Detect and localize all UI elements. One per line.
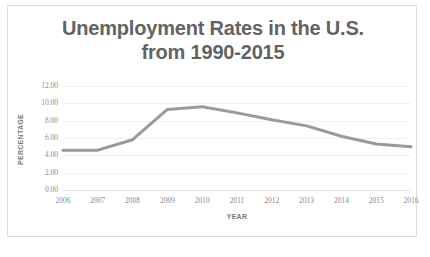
- plot-wrapper: PERCENTAGE 12.0010.008.006.004.002.000.0…: [8, 80, 418, 238]
- x-axis-tick-labels: 2006200720082009201020112012201320142015…: [63, 196, 411, 210]
- plot-area: [63, 86, 411, 190]
- chart-card: Unemployment Rates in the U.S. from 1990…: [7, 5, 417, 237]
- chart-title-line-1: Unemployment Rates in the U.S.: [8, 16, 418, 40]
- y-axis-title: PERCENTAGE: [17, 104, 24, 176]
- y-axis-tick-label: 2.00: [24, 168, 58, 177]
- gridline: [63, 190, 411, 191]
- x-axis-tick-label: 2016: [391, 196, 430, 205]
- chart-title-line-2: from 1990-2015: [8, 40, 418, 64]
- chart-title: Unemployment Rates in the U.S. from 1990…: [8, 16, 418, 65]
- y-axis-tick-label: 6.00: [24, 133, 58, 142]
- y-axis-tick-label: 10.00: [24, 98, 58, 107]
- series-polyline: [63, 107, 411, 150]
- y-axis-tick-label: 12.00: [24, 81, 58, 90]
- y-axis-tick-label: 8.00: [24, 116, 58, 125]
- y-axis-tick-labels: 12.0010.008.006.004.002.000.00: [24, 80, 58, 238]
- x-axis-title: YEAR: [63, 213, 411, 220]
- y-axis-tick-label: 0.00: [24, 185, 58, 194]
- series-line-unemployment-rate: [63, 86, 411, 190]
- y-axis-tick-label: 4.00: [24, 150, 58, 159]
